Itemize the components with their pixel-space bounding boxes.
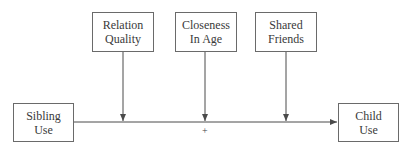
node-child-use: Child Use — [338, 103, 399, 142]
node-label-line2: Use — [34, 123, 53, 137]
node-label-line2: Use — [359, 123, 378, 137]
node-sibling-use: Sibling Use — [13, 103, 74, 142]
node-label-line1: Sibling — [26, 109, 61, 123]
main-path-sign-label: + — [202, 126, 208, 136]
node-shared-friends: Shared Friends — [255, 12, 317, 52]
node-label-line2: In Age — [190, 32, 222, 46]
node-label-line1: Child — [355, 109, 382, 123]
node-label-line1: Closeness — [182, 18, 230, 32]
node-label-line1: Shared — [269, 18, 302, 32]
node-relation-quality: Relation Quality — [92, 12, 154, 52]
node-closeness-in-age: Closeness In Age — [175, 12, 237, 52]
node-label-line2: Friends — [268, 32, 304, 46]
node-label-line2: Quality — [105, 32, 141, 46]
node-label-line1: Relation — [103, 18, 144, 32]
